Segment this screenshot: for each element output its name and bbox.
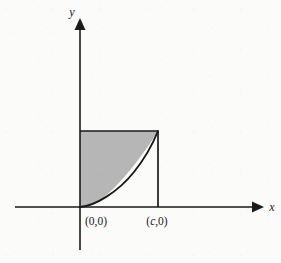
x-axis-label: x [268,200,275,214]
shaded-region [80,131,158,207]
c-point-label: (c,0) [146,215,168,228]
coordinate-plane-figure: y x (0,0) (c,0) [0,0,281,263]
x-axis-arrow-icon [252,202,264,213]
y-axis-arrow-icon [75,18,86,30]
c-label-close: ,0) [155,215,168,228]
origin-point-label: (0,0) [85,215,107,228]
y-axis-label: y [68,5,75,19]
figure-container: y x (0,0) (c,0) [0,0,281,263]
